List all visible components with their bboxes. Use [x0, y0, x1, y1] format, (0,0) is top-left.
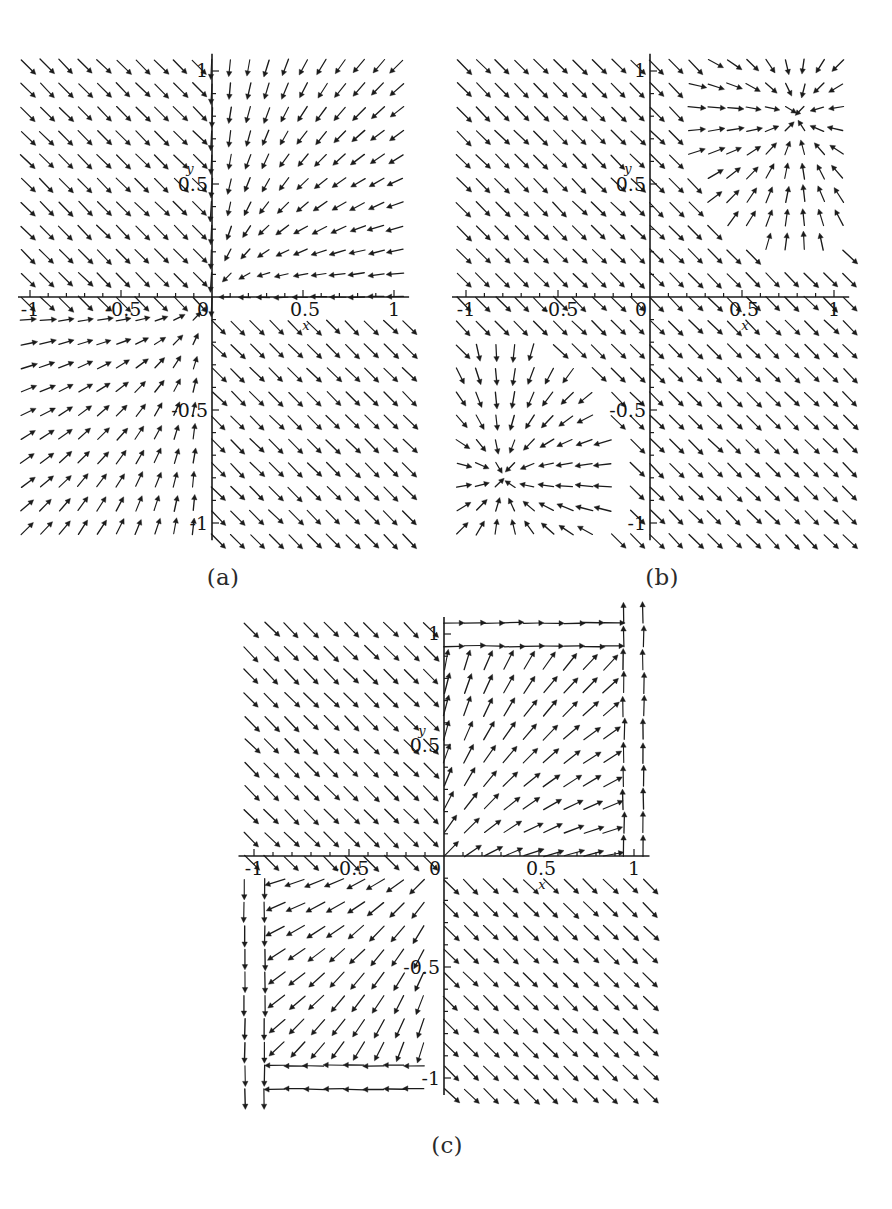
- svg-text:0.5: 0.5: [526, 857, 556, 879]
- svg-text:-1: -1: [457, 298, 476, 320]
- svg-text:1: 1: [388, 298, 400, 320]
- svg-text:1: 1: [196, 59, 208, 81]
- svg-text:0.5: 0.5: [290, 298, 320, 320]
- phase-portrait-panel-b: -1-0.500.5110.5-0.5-1xy (b): [452, 16, 872, 556]
- svg-text:-0.5: -0.5: [171, 399, 208, 421]
- svg-text:-1: -1: [245, 857, 264, 879]
- svg-text:-1: -1: [21, 298, 40, 320]
- vector-field-plot-c: -1-0.500.5110.5-0.5-1xy: [232, 594, 662, 1124]
- svg-text:-0.5: -0.5: [333, 857, 370, 879]
- svg-text:-1: -1: [421, 1067, 440, 1089]
- panel-caption-c: (c): [232, 1132, 662, 1158]
- vector-field-plot-b: -1-0.500.5110.5-0.5-1xy: [452, 16, 872, 556]
- svg-text:1: 1: [628, 857, 640, 879]
- panel-caption-b: (b): [452, 564, 872, 590]
- svg-text:x: x: [302, 318, 310, 333]
- svg-text:x: x: [538, 877, 546, 892]
- svg-text:y: y: [417, 723, 426, 738]
- vector-field-plot-a: -1-0.500.5110.5-0.5-1xy: [18, 16, 428, 556]
- svg-text:y: y: [623, 161, 632, 176]
- svg-text:-0.5: -0.5: [542, 298, 579, 320]
- svg-text:0.5: 0.5: [729, 298, 759, 320]
- svg-text:1: 1: [428, 622, 440, 644]
- svg-text:-0.5: -0.5: [609, 399, 646, 421]
- svg-text:y: y: [185, 161, 194, 176]
- phase-portrait-panel-a: -1-0.500.5110.5-0.5-1xy (a): [18, 16, 428, 556]
- svg-text:1: 1: [634, 59, 646, 81]
- svg-text:-1: -1: [189, 512, 208, 534]
- svg-text:x: x: [741, 318, 749, 333]
- phase-portrait-panel-c: -1-0.500.5110.5-0.5-1xy (c): [232, 594, 662, 1139]
- svg-text:1: 1: [828, 298, 840, 320]
- svg-text:-0.5: -0.5: [105, 298, 142, 320]
- svg-text:-1: -1: [627, 512, 646, 534]
- panel-caption-a: (a): [18, 564, 428, 590]
- svg-text:-0.5: -0.5: [403, 956, 440, 978]
- svg-text:0: 0: [429, 857, 441, 879]
- figure-sheet: -1-0.500.5110.5-0.5-1xy (a) -1-0.500.511…: [0, 0, 892, 1209]
- svg-text:0: 0: [197, 298, 209, 320]
- svg-text:0: 0: [635, 298, 647, 320]
